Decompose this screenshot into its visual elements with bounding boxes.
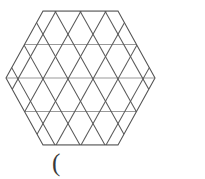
figure-container: ( [0,0,205,179]
diagonal-dr-4 [55,11,135,154]
diagonal-dr-5 [80,11,160,154]
diagonal-dr-7 [0,11,35,154]
diagonal-dr-2 [5,11,85,154]
diagonal-dl-4 [26,11,106,154]
hexagon-triangle-grid-figure [0,0,205,179]
diagonal-lines-down-right [0,11,185,154]
horizontal-grid-lines [4,11,157,145]
diagonal-dr-6 [105,11,185,154]
diagonal-dl-1 [101,11,181,154]
diagonal-dl-5 [1,11,81,154]
diagonal-dl-3 [51,11,131,154]
diagonal-dl-2 [76,11,156,154]
caption-open-paren: ( [52,150,76,178]
diagonal-dr-3 [30,11,110,154]
diagonal-dl-7 [126,11,205,154]
